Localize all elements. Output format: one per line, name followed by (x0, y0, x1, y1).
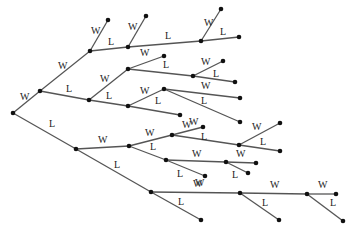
edge-label: L (220, 26, 226, 37)
tree-node-f_w (162, 54, 167, 59)
edge-loss (40, 91, 89, 100)
edge-label: L (178, 196, 184, 207)
tree-node-g_w (221, 59, 226, 64)
tree-node-p (224, 160, 229, 165)
tree-node-b_w (106, 18, 111, 23)
edge-label: W (318, 179, 328, 190)
tree-node-g (191, 74, 196, 79)
edge-win (151, 192, 240, 193)
edge-label: L (201, 95, 207, 106)
edge-label: L (232, 169, 238, 180)
tree-node-m_w (201, 125, 206, 130)
edge-label: L (262, 197, 268, 208)
edge-loss (240, 193, 279, 220)
edge-label: L (213, 68, 219, 79)
edge-loss (129, 146, 166, 160)
edge-label: W (270, 179, 280, 190)
edge-label: W (145, 127, 155, 138)
tree-node-s_l (341, 219, 346, 224)
edge-label: W (140, 47, 150, 58)
tree-node-a (38, 89, 43, 94)
edge-label: W (204, 17, 214, 28)
tree-node-h_l (178, 113, 183, 118)
edge-loss (128, 41, 201, 47)
tree-node-p_w (254, 161, 259, 166)
edge-label: L (165, 30, 171, 41)
tree-node-r_l (277, 218, 282, 223)
edge-label: L (106, 90, 112, 101)
tree-node-g_l (233, 80, 238, 85)
tree-node-s (305, 192, 310, 197)
nodes-layer (11, 7, 346, 224)
edge-label: L (150, 141, 156, 152)
edge-label: L (260, 136, 266, 147)
edge-label: W (189, 116, 199, 127)
tree-node-j (74, 147, 79, 152)
tree-node-e (87, 98, 92, 103)
edge-label: W (91, 25, 101, 36)
tree-node-m (170, 133, 175, 138)
tree-node-d_w (219, 7, 224, 12)
edge-win (166, 160, 226, 162)
edge-label: L (66, 83, 72, 94)
win-loss-tree: WWWLWLWLLWWLWLLWWLLLWWWLWLLWWLLLWLWLWLWW (0, 0, 350, 230)
edge-loss (166, 160, 205, 176)
edge-loss (76, 149, 151, 192)
edge-label: W (58, 60, 68, 71)
edge-loss (128, 69, 193, 76)
tree-node-i_w (238, 96, 243, 101)
tree-node-o (164, 158, 169, 163)
edge-label: W (236, 148, 246, 159)
tree-node-k (127, 144, 132, 149)
edge-loss (128, 106, 180, 115)
edge-win (226, 162, 256, 163)
tree-node-o_l (203, 174, 208, 179)
edge-label: W (20, 91, 30, 102)
tree-diagram: WWWLWLWLLWWLWLLWWLLLWWWLWLLWWLLLWLWLWLWW (0, 0, 350, 230)
tree-node-q_l (199, 218, 204, 223)
edge-win (76, 146, 129, 149)
edge-loss (13, 113, 76, 149)
edge-label: L (114, 159, 120, 170)
tree-node-n_l (278, 149, 283, 154)
tree-node-i (162, 87, 167, 92)
edge-label: W (128, 21, 138, 32)
edge-label: L (201, 131, 207, 142)
edge-label: W (140, 85, 150, 96)
edge-label: W (252, 121, 262, 132)
tree-node-s_w (334, 192, 339, 197)
tree-node-root (11, 111, 16, 116)
tree-node-c_w (144, 14, 149, 19)
tree-node-n (237, 143, 242, 148)
edge-loss (151, 192, 201, 220)
edge-label: W (100, 73, 110, 84)
edge-label: W (195, 177, 205, 188)
edge-label: L (108, 36, 114, 47)
edge-loss (307, 194, 343, 221)
tree-node-d_l (237, 35, 242, 40)
tree-node-f (126, 67, 131, 72)
tree-node-b (88, 49, 93, 54)
tree-node-p_l (246, 171, 251, 176)
edge-label: L (177, 168, 183, 179)
edge-label: W (201, 80, 211, 91)
edge-win (240, 193, 307, 194)
edge-win (40, 51, 90, 91)
tree-node-h (126, 104, 131, 109)
edge-label: L (163, 59, 169, 70)
edge-label: L (330, 197, 336, 208)
edge-label: W (192, 148, 202, 159)
edge-label: L (49, 118, 55, 129)
edge-loss (90, 47, 128, 51)
tree-node-c (126, 45, 131, 50)
tree-node-r (238, 191, 243, 196)
tree-node-i_l (238, 120, 243, 125)
tree-node-n_w (278, 121, 283, 126)
edge-label: L (155, 95, 161, 106)
labels-layer: WWWLWLWLLWWLWLLWWLLLWWWLWLLWWLLLWLWLWLWW (20, 17, 336, 208)
edge-label: W (98, 134, 108, 145)
edge-loss (201, 37, 239, 41)
edge-label: W (201, 56, 211, 67)
tree-node-q (149, 190, 154, 195)
tree-node-d (199, 39, 204, 44)
